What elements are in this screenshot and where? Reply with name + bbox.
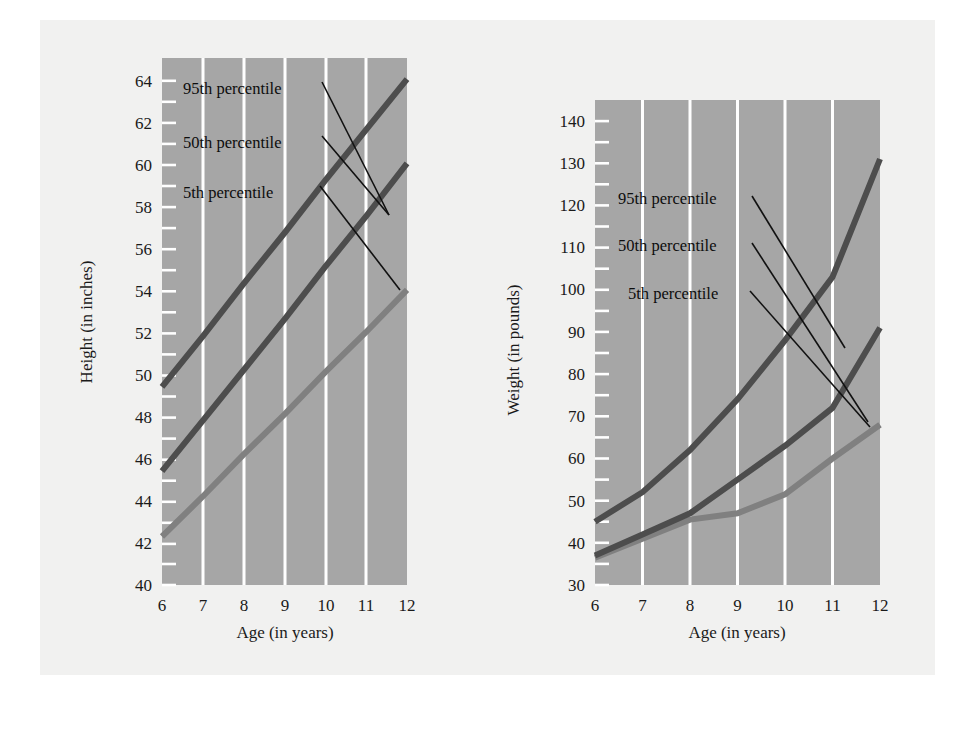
weight-xtick-label: 9 xyxy=(733,596,742,615)
weight-ytick-label: 80 xyxy=(568,365,585,384)
weight-xtick-label: 10 xyxy=(777,596,794,615)
height-annotation-p5: 5th percentile xyxy=(183,183,273,202)
weight-annotation-p5: 5th percentile xyxy=(628,284,718,303)
weight-ytick-label: 100 xyxy=(560,280,586,299)
height-annotation-p50: 50th percentile xyxy=(183,133,282,152)
height-y-axis-title: Height (in inches) xyxy=(77,261,96,384)
height-ytick-label: 40 xyxy=(135,576,152,595)
height-y-labels: 40 42 44 46 48 50 52 54 56 58 60 62 64 xyxy=(135,72,153,595)
height-xtick-label: 11 xyxy=(358,596,374,615)
height-ytick-label: 48 xyxy=(135,408,152,427)
height-chart: 40 42 44 46 48 50 52 54 56 58 60 62 64 6… xyxy=(77,58,416,642)
height-ytick-label: 44 xyxy=(135,492,153,511)
height-xtick-label: 12 xyxy=(399,596,416,615)
weight-ytick-label: 120 xyxy=(560,196,586,215)
height-x-labels: 6 7 8 9 10 11 12 xyxy=(158,596,416,615)
height-ytick-label: 64 xyxy=(135,72,153,91)
height-ytick-label: 60 xyxy=(135,156,152,175)
weight-annotation-p50: 50th percentile xyxy=(618,236,717,255)
height-ytick-label: 62 xyxy=(135,114,152,133)
height-xtick-label: 7 xyxy=(199,596,208,615)
weight-y-labels: 30 40 50 60 70 80 90 100 110 120 130 140 xyxy=(560,112,586,595)
height-xtick-label: 10 xyxy=(318,596,335,615)
height-x-axis-title: Age (in years) xyxy=(236,623,333,642)
weight-xtick-label: 11 xyxy=(824,596,840,615)
weight-xtick-label: 8 xyxy=(686,596,695,615)
weight-y-axis-title: Weight (in pounds) xyxy=(504,285,523,416)
charts-svg: 40 42 44 46 48 50 52 54 56 58 60 62 64 6… xyxy=(0,0,972,729)
height-ytick-label: 56 xyxy=(135,240,152,259)
weight-xtick-label: 6 xyxy=(591,596,600,615)
height-xtick-label: 6 xyxy=(158,596,167,615)
weight-ytick-label: 110 xyxy=(560,238,585,257)
weight-ytick-label: 70 xyxy=(568,407,585,426)
height-ytick-label: 54 xyxy=(135,282,153,301)
height-xtick-label: 9 xyxy=(281,596,290,615)
weight-x-labels: 6 7 8 9 10 11 12 xyxy=(591,596,889,615)
height-xtick-label: 8 xyxy=(240,596,249,615)
height-ytick-label: 42 xyxy=(135,534,152,553)
weight-ytick-label: 130 xyxy=(560,154,586,173)
weight-ytick-label: 40 xyxy=(568,534,585,553)
height-ytick-label: 58 xyxy=(135,198,152,217)
height-ytick-label: 46 xyxy=(135,450,152,469)
weight-xtick-label: 7 xyxy=(638,596,647,615)
weight-ytick-label: 30 xyxy=(568,576,585,595)
height-ytick-label: 52 xyxy=(135,324,152,343)
weight-chart: 30 40 50 60 70 80 90 100 110 120 130 140… xyxy=(504,100,889,642)
weight-ytick-label: 60 xyxy=(568,449,585,468)
weight-annotation-p95: 95th percentile xyxy=(618,189,717,208)
weight-ytick-label: 140 xyxy=(560,112,586,131)
height-annotation-p95: 95th percentile xyxy=(183,79,282,98)
weight-x-axis-title: Age (in years) xyxy=(688,623,785,642)
weight-xtick-label: 12 xyxy=(872,596,889,615)
weight-ytick-label: 90 xyxy=(568,323,585,342)
height-ytick-label: 50 xyxy=(135,366,152,385)
figure-page: 40 42 44 46 48 50 52 54 56 58 60 62 64 6… xyxy=(0,0,972,729)
weight-ytick-label: 50 xyxy=(568,492,585,511)
